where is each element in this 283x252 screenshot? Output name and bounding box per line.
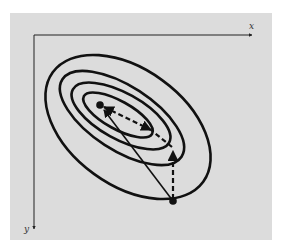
x-axis-label: x [249,21,254,31]
optimum-point [96,101,104,109]
y-axis-label: y [23,224,30,234]
contour-outer [19,25,238,228]
contour-diagram: x y [0,0,283,252]
contour-third [45,52,199,183]
axes: x y [23,21,254,234]
start-point [169,197,177,205]
contour-lines [19,25,238,228]
